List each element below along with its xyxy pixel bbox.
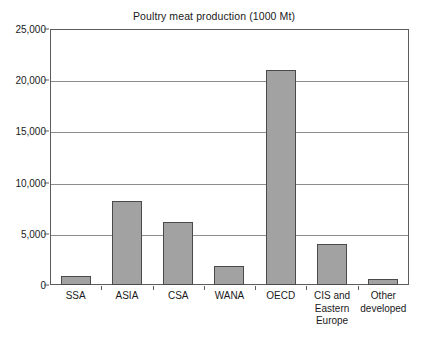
y-axis-tick-label: 25,000: [2, 24, 46, 35]
gridline: [51, 81, 408, 82]
plot-area: [50, 29, 409, 285]
x-axis-label: OECD: [255, 290, 306, 303]
y-axis-tick-mark: [44, 131, 49, 132]
x-axis-label: SSA: [50, 290, 101, 303]
x-axis-label: Otherdeveloped: [358, 290, 409, 315]
x-axis-label: WANA: [204, 290, 255, 303]
gridline: [51, 235, 408, 236]
y-axis-tick-mark: [44, 285, 49, 286]
y-axis-tick-label: 15,000: [2, 126, 46, 137]
y-axis-tick-mark: [44, 80, 49, 81]
y-axis-tick-mark: [44, 182, 49, 183]
y-axis-tick-label: 20,000: [2, 75, 46, 86]
y-axis-tick-mark: [44, 233, 49, 234]
y-axis-tick-label: 10,000: [2, 177, 46, 188]
y-axis-tick-mark: [44, 29, 49, 30]
x-axis-label: CSA: [153, 290, 204, 303]
y-axis-tick-label: 0: [2, 280, 46, 291]
gridline: [51, 132, 408, 133]
y-axis: 05,00010,00015,00020,00025,000: [0, 29, 46, 285]
x-axis-label: CIS andEasternEurope: [306, 290, 357, 328]
chart-title: Poultry meat production (1000 Mt): [0, 10, 428, 22]
x-axis-label: ASIA: [101, 290, 152, 303]
poultry-meat-production-chart: Poultry meat production (1000 Mt) 05,000…: [0, 0, 428, 343]
x-axis-labels: SSAASIACSAWANAOECDCIS andEasternEuropeOt…: [50, 290, 409, 340]
gridline: [51, 184, 408, 185]
y-axis-tick-label: 5,000: [2, 228, 46, 239]
